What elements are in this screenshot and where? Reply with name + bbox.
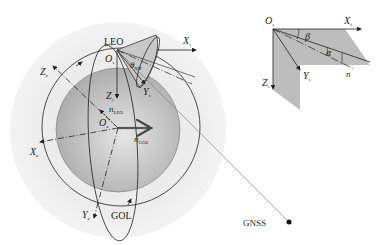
xs-label: Xs (182, 35, 191, 47)
inset-zs-label: Zs (262, 77, 270, 89)
inset-ys-label: Ys (303, 70, 311, 82)
beta-label: β (304, 31, 310, 42)
gnss-satellite-dot (287, 220, 292, 225)
inset-n-label: n (346, 69, 351, 79)
inset-xs-label: Xs (343, 15, 352, 27)
leo-label: LEO (104, 36, 123, 47)
inset-figure: Os Xs β α n Ys Zs (262, 15, 370, 110)
gol-label: GOL (111, 210, 132, 221)
main-figure: LEO Xs Os θNM Ys Zs Ze nLEO Oe nGOL Xe Y… (10, 22, 292, 242)
gnss-label: GNSS (243, 218, 266, 228)
alpha-label: α (326, 47, 332, 58)
diagram-canvas: LEO Xs Os θNM Ys Zs Ze nLEO Oe nGOL Xe Y… (0, 0, 388, 245)
inset-os-label: Os (265, 15, 274, 27)
